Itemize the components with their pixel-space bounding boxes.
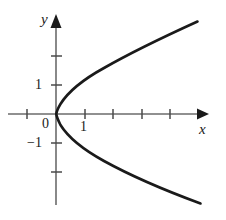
origin-label: 0: [42, 117, 49, 131]
x-tick-label-1: 1: [80, 120, 87, 134]
parabola-curve: [56, 22, 200, 204]
parabola-figure: y x 1 −1 0 1: [0, 0, 226, 220]
y-tick-label-minus-1: −1: [27, 136, 42, 150]
x-axis-arrow-icon: [197, 109, 209, 120]
plot-canvas: [0, 0, 226, 220]
y-tick-label-1: 1: [35, 78, 42, 92]
y-axis-arrow-icon: [51, 14, 62, 28]
y-axis-label: y: [41, 12, 48, 27]
x-axis-label: x: [199, 122, 206, 137]
